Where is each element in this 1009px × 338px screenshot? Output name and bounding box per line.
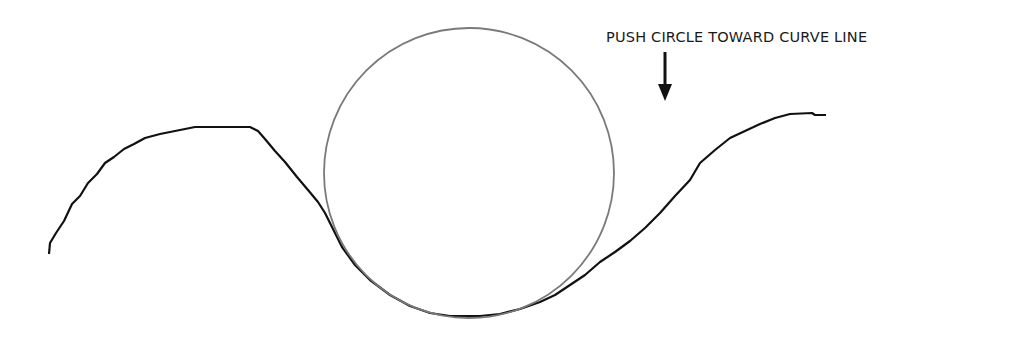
curve-line[interactable]: [49, 113, 826, 316]
instruction-label: PUSH CIRCLE TOWARD CURVE LINE: [606, 29, 867, 45]
down-arrow-icon: [658, 52, 672, 101]
diagram-canvas: [0, 0, 1009, 338]
circle-shape[interactable]: [324, 28, 614, 318]
